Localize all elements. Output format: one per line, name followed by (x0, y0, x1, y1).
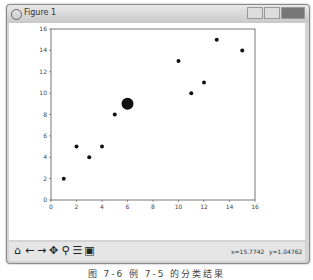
data-point (240, 48, 244, 52)
forward-icon[interactable]: → (36, 245, 47, 257)
title-bar: Figure 1 (7, 5, 309, 23)
y-tick-label: 14 (39, 46, 47, 53)
cursor-y-readout: y=1.04762 (269, 248, 302, 255)
x-tick-label: 2 (75, 203, 79, 210)
data-point (113, 113, 117, 117)
y-tick-label: 0 (43, 196, 47, 203)
x-tick-label: 12 (200, 203, 208, 210)
navigation-toolbar: ⌂ ← → ✥ ⚲ ☰ ▣ x=15.7742 y=1.04762 (9, 242, 305, 261)
y-tick-label: 16 (39, 25, 47, 32)
app-icon (11, 9, 22, 20)
plot-canvas[interactable]: 02468101214160246810121416 (9, 23, 305, 240)
pan-icon[interactable]: ✥ (48, 245, 59, 257)
home-icon[interactable]: ⌂ (12, 245, 23, 257)
center-point (122, 98, 134, 110)
axes-frame (51, 29, 255, 200)
x-tick-label: 0 (49, 203, 53, 210)
back-icon[interactable]: ← (24, 245, 35, 257)
save-icon[interactable]: ▣ (84, 245, 95, 257)
y-tick-label: 6 (43, 132, 47, 139)
data-point (202, 80, 206, 84)
y-tick-label: 8 (43, 111, 47, 118)
cursor-x-readout: x=15.7742 (231, 248, 264, 255)
figure-window: Figure 1 02468101214160246810121416 ⌂ ← … (6, 4, 310, 264)
x-tick-label: 16 (251, 203, 259, 210)
x-tick-label: 8 (151, 203, 155, 210)
x-tick-label: 4 (100, 203, 104, 210)
close-button[interactable] (281, 7, 305, 19)
data-point (75, 145, 79, 149)
y-tick-label: 12 (39, 68, 47, 75)
y-tick-label: 2 (43, 175, 47, 182)
x-tick-label: 10 (175, 203, 183, 210)
figure-caption: 图 7-6 例 7-5 的分类结果 (0, 267, 313, 280)
data-point (100, 145, 104, 149)
zoom-icon[interactable]: ⚲ (60, 245, 71, 257)
maximize-button[interactable] (264, 7, 280, 19)
data-point (87, 155, 91, 159)
data-point (177, 59, 181, 63)
window-title: Figure 1 (24, 8, 56, 17)
minimize-button[interactable] (247, 7, 263, 19)
data-point (62, 177, 66, 181)
scatter-chart: 02468101214160246810121416 (9, 23, 305, 240)
data-point (215, 38, 219, 42)
data-point (189, 91, 193, 95)
x-tick-label: 14 (226, 203, 234, 210)
configure-icon[interactable]: ☰ (72, 245, 83, 257)
y-tick-label: 10 (39, 89, 47, 96)
x-tick-label: 6 (126, 203, 130, 210)
y-tick-label: 4 (43, 153, 47, 160)
